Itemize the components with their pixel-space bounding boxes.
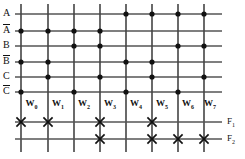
overbar [3, 85, 10, 86]
connection-dot [71, 43, 76, 48]
word-label-text: W [78, 98, 87, 108]
word-label-text: W [130, 98, 139, 108]
pla-diagram: AABBCC W0W1W2W3W4W5W6W7 F1F2 [0, 0, 245, 159]
input-label-text: A [3, 8, 10, 18]
input-label-a-bar: A [3, 25, 10, 35]
output-label-f1: F1 [227, 117, 235, 128]
word-label-text: W [182, 98, 191, 108]
word-label-w3: W3 [104, 99, 116, 110]
output-label-index: 1 [232, 122, 235, 128]
connection-dot [149, 11, 154, 16]
connection-dot [123, 11, 128, 16]
connection-dot [201, 11, 206, 16]
word-label-index: 3 [113, 104, 116, 110]
word-label-index: 6 [191, 104, 194, 110]
word-label-text: W [26, 98, 35, 108]
connection-dot [175, 89, 180, 94]
word-label-index: 0 [35, 104, 38, 110]
word-label-text: W [52, 98, 61, 108]
input-label-text: B [3, 40, 10, 50]
connection-dot [45, 28, 50, 33]
input-label-text: A [3, 25, 10, 35]
connection-dot [123, 59, 128, 64]
input-label-c-bar: C [3, 86, 10, 96]
overbar [3, 24, 10, 25]
word-label-text: W [156, 98, 165, 108]
word-label-w6: W6 [182, 99, 194, 110]
connection-dot [201, 43, 206, 48]
word-label-text: W [204, 98, 213, 108]
input-label-text: B [3, 56, 10, 66]
input-label-c: C [3, 71, 10, 81]
connection-dot [71, 28, 76, 33]
word-label-index: 5 [165, 104, 168, 110]
connection-dot [149, 74, 154, 79]
input-label-a: A [3, 8, 10, 18]
connection-dot [71, 89, 76, 94]
input-label-b-bar: B [3, 56, 10, 66]
connection-dot [18, 59, 23, 64]
connection-dot [123, 89, 128, 94]
word-label-w2: W2 [78, 99, 90, 110]
output-label-index: 2 [232, 139, 235, 145]
connection-dot [18, 89, 23, 94]
input-line-group [15, 14, 222, 92]
input-label-b: B [3, 40, 10, 50]
overbar [3, 55, 10, 56]
word-label-index: 1 [61, 104, 64, 110]
word-label-text: W [104, 98, 113, 108]
connection-dot [18, 28, 23, 33]
word-label-index: 7 [213, 104, 216, 110]
connection-dot [175, 43, 180, 48]
word-label-w0: W0 [26, 99, 38, 110]
connection-dot [175, 11, 180, 16]
connection-dot [97, 74, 102, 79]
word-label-w1: W1 [52, 99, 64, 110]
connection-dot [149, 59, 154, 64]
output-label-f2: F2 [227, 134, 235, 145]
word-label-w5: W5 [156, 99, 168, 110]
input-label-text: C [3, 71, 10, 81]
word-label-w4: W4 [130, 99, 142, 110]
connection-dot [45, 74, 50, 79]
connection-dot [97, 28, 102, 33]
word-label-index: 4 [139, 104, 142, 110]
connection-dot [201, 74, 206, 79]
input-label-text: C [3, 86, 10, 96]
connection-dot [97, 43, 102, 48]
pla-grid-svg [0, 0, 245, 159]
word-label-index: 2 [87, 104, 90, 110]
word-label-w7: W7 [204, 99, 216, 110]
connection-dot [45, 59, 50, 64]
